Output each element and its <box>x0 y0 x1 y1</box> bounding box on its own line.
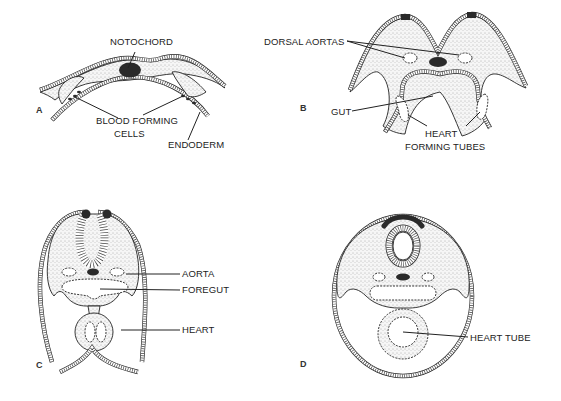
label-heart: HEART <box>182 324 215 335</box>
label-heart-forming-1: HEART <box>425 128 458 139</box>
embryo-diagram: NOTOCHORD BLOOD FORMING CELLS ENDODERM A <box>0 0 561 401</box>
neural-crest-right <box>467 12 476 18</box>
label-dorsal-aortas: DORSAL AORTAS <box>264 36 344 47</box>
neural-crest-c-left <box>82 210 91 219</box>
label-endoderm: ENDODERM <box>168 139 224 150</box>
heart-tube-c-right <box>96 322 106 342</box>
notochord-c <box>87 269 99 276</box>
dorsal-aorta-left <box>403 53 417 63</box>
label-blood-forming-2: CELLS <box>114 128 145 139</box>
label-foregut: FOREGUT <box>182 284 229 295</box>
panel-b: DORSAL AORTAS GUT HEART FORMING TUBES B <box>264 12 526 152</box>
notochord-a <box>119 63 141 78</box>
label-aorta: AORTA <box>182 268 215 279</box>
aorta-left-c <box>62 268 76 276</box>
label-gut: GUT <box>331 106 351 117</box>
label-blood-forming-1: BLOOD FORMING <box>96 115 178 126</box>
panel-c: AORTA FOREGUT HEART C <box>36 210 229 373</box>
notochord-d <box>396 274 410 281</box>
panel-a: NOTOCHORD BLOOD FORMING CELLS ENDODERM A <box>36 36 225 150</box>
aorta-right-c <box>110 268 124 276</box>
label-heart-forming-2: FORMING TUBES <box>405 141 485 152</box>
label-notochord: NOTOCHORD <box>110 36 173 47</box>
panel-label-d: D <box>300 359 307 369</box>
aorta-right-d <box>422 273 434 281</box>
dorsal-aorta-right <box>458 53 472 63</box>
panel-label-a: A <box>36 105 43 115</box>
neural-crest-left <box>401 14 410 20</box>
panel-label-b: B <box>300 103 307 113</box>
foregut-d <box>370 286 436 300</box>
neural-crest-c-right <box>103 210 112 219</box>
aorta-left-d <box>373 273 385 281</box>
panel-label-c: C <box>36 360 43 370</box>
heart-tube-c-left <box>85 322 95 342</box>
panel-d: HEART TUBE D <box>300 216 531 376</box>
notochord-b <box>429 57 447 67</box>
label-heart-tube: HEART TUBE <box>470 332 531 343</box>
